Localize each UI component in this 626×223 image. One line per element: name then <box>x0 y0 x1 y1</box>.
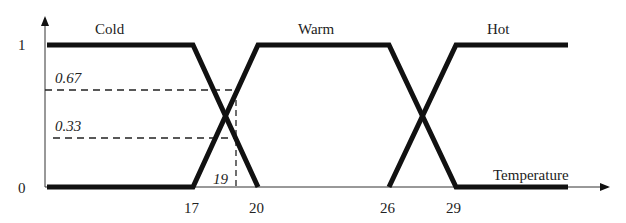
x-tick-17: 17 <box>184 200 200 216</box>
series-label-hot: Hot <box>487 21 510 37</box>
dashed-label-19: 19 <box>213 171 229 187</box>
fuzzy-membership-chart: 1 0 0.67 0.33 19 17 20 26 29 Cold Warm H… <box>0 0 626 223</box>
series-label-warm: Warm <box>298 21 335 37</box>
y-tick-0: 0 <box>18 180 26 196</box>
hot-curve <box>389 45 568 187</box>
dashed-label-067: 0.67 <box>55 70 83 86</box>
x-tick-29: 29 <box>446 200 461 216</box>
dashed-label-033: 0.33 <box>55 118 81 134</box>
y-tick-1: 1 <box>18 37 26 53</box>
x-axis-label: Temperature <box>493 167 569 183</box>
series-label-cold: Cold <box>95 21 125 37</box>
x-tick-26: 26 <box>380 200 396 216</box>
warm-curve <box>47 45 568 187</box>
x-tick-20: 20 <box>249 200 264 216</box>
